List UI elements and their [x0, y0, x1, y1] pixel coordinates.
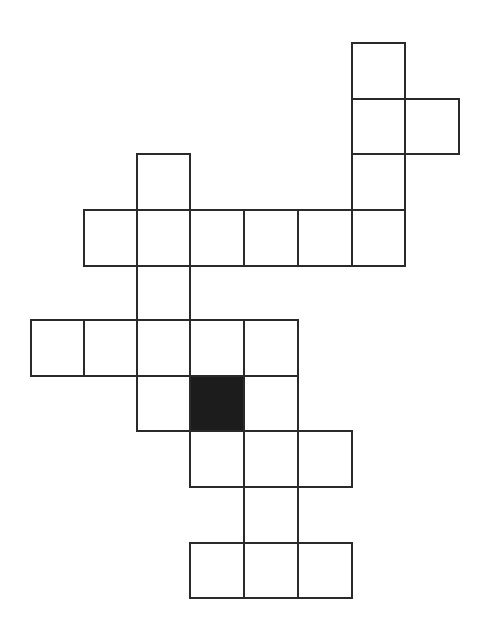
grid-cell: [136, 265, 191, 321]
grid-cell: [189, 209, 245, 267]
grid-cell: [136, 153, 191, 211]
grid-cell: [297, 430, 353, 488]
grid-cell: [351, 209, 406, 267]
polyomino-grid-figure: [0, 0, 488, 640]
grid-cell: [351, 42, 406, 100]
grid-cell: [297, 209, 353, 267]
grid-cell: [136, 209, 191, 267]
grid-cell: [83, 209, 138, 267]
grid-cell: [30, 319, 85, 377]
grid-cell: [189, 542, 245, 599]
grid-cell: [243, 542, 299, 599]
grid-cell: [83, 319, 138, 377]
grid-cell: [243, 486, 299, 544]
grid-cell: [351, 153, 406, 211]
grid-cell: [351, 98, 406, 155]
grid-cell: [243, 430, 299, 488]
grid-cell: [243, 375, 299, 432]
grid-cell: [136, 319, 191, 377]
grid-cell: [189, 319, 245, 377]
grid-cell: [243, 319, 299, 377]
grid-cell: [297, 542, 353, 599]
grid-cell-filled: [189, 375, 245, 432]
grid-cell: [189, 430, 245, 488]
grid-cell: [136, 375, 191, 432]
grid-cell: [243, 209, 299, 267]
grid-cell: [404, 98, 460, 155]
